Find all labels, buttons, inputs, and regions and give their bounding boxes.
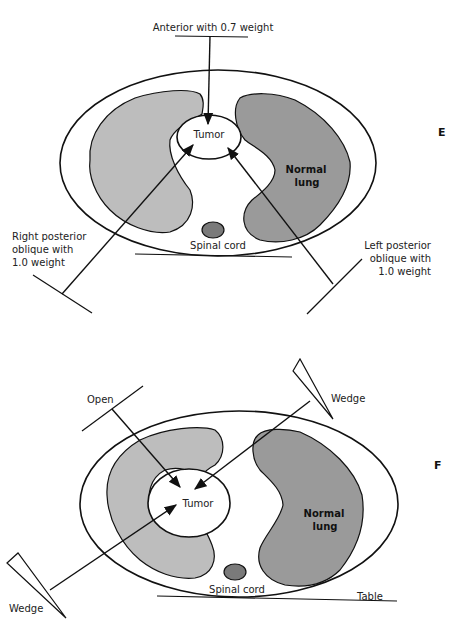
rpo-beam-label-line3: 1.0 weight	[12, 257, 65, 268]
anterior-beam-label: Anterior with 0.7 weight	[153, 22, 274, 33]
table-label: Table	[356, 591, 383, 602]
wedge-upper-label: Wedge	[331, 393, 365, 404]
anterior-beam-collimator	[175, 36, 248, 37]
panel-e-letter: E	[438, 126, 446, 139]
lpo-beam-label-line3: 1.0 weight	[378, 266, 431, 277]
rpo-beam-label-line2: oblique with	[12, 244, 73, 255]
tumor-label: Tumor	[182, 498, 215, 509]
normal-lung-label-line2: lung	[295, 177, 320, 188]
normal-lung-label-line2: lung	[313, 521, 338, 532]
open-beam-label: Open	[87, 394, 114, 405]
spinal-cord-label: Spinal cord	[209, 584, 265, 595]
panel-f-letter: F	[434, 459, 442, 472]
right-lung	[90, 91, 204, 233]
lpo-beam-collimator	[307, 259, 362, 314]
lpo-beam-label: Left posterior	[364, 240, 432, 251]
panel-f: Tumor Normal lung Spinal cord Table Open…	[7, 359, 442, 618]
panel-e: Tumor Normal lung Spinal cord Anterior w…	[12, 22, 446, 314]
normal-lung-label: Normal	[286, 164, 327, 175]
spinal-cord	[224, 564, 246, 580]
spinal-cord-label: Spinal cord	[190, 240, 246, 251]
anterior-beam-arrow	[208, 36, 210, 124]
tumor-label: Tumor	[193, 129, 226, 140]
lpo-beam-label-line2: oblique with	[370, 253, 431, 264]
wedge-lower-label: Wedge	[9, 603, 43, 614]
spinal-cord	[202, 222, 224, 238]
open-beam-collimator	[82, 386, 143, 431]
normal-lung-label: Normal	[304, 508, 345, 519]
rpo-beam-label: Right posterior	[12, 231, 87, 242]
diagram-canvas: Tumor Normal lung Spinal cord Anterior w…	[0, 0, 460, 630]
